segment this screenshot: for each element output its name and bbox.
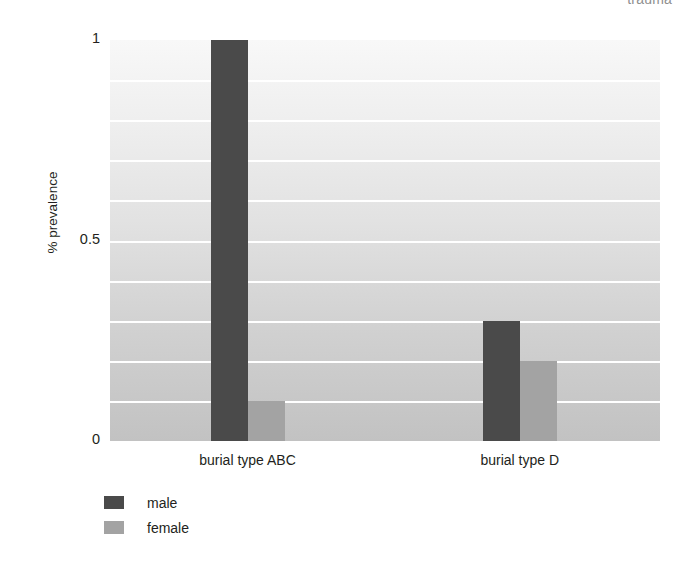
x-tick-label-0: burial type ABC xyxy=(199,452,296,468)
chart-legend: malefemale xyxy=(104,490,189,540)
bar-male-0 xyxy=(211,40,248,441)
legend-label-female: female xyxy=(147,520,189,536)
gridline xyxy=(110,361,660,363)
gridline xyxy=(110,200,660,202)
figure-title: trauma xyxy=(0,0,696,11)
gridline xyxy=(110,321,660,323)
y-axis-tick-labels: 00.51 xyxy=(38,0,100,565)
gridline xyxy=(110,160,660,162)
y-tick-label: 0 xyxy=(42,431,100,447)
bar-female-1 xyxy=(520,361,557,441)
legend-item-female: female xyxy=(104,515,189,540)
y-tick-label: 1 xyxy=(42,30,100,46)
legend-label-male: male xyxy=(147,495,177,511)
bar-male-1 xyxy=(483,321,520,441)
plot-area xyxy=(110,40,660,441)
gridline xyxy=(110,120,660,122)
y-tick-label: 0.5 xyxy=(42,231,100,247)
bar-female-0 xyxy=(248,401,285,441)
legend-item-male: male xyxy=(104,490,189,515)
gridline xyxy=(110,80,660,82)
gridline xyxy=(110,401,660,403)
gridline xyxy=(110,281,660,283)
legend-swatch-male xyxy=(104,496,124,509)
legend-swatch-female xyxy=(104,521,124,534)
x-tick-label-1: burial type D xyxy=(480,452,559,468)
gridline xyxy=(110,241,660,243)
